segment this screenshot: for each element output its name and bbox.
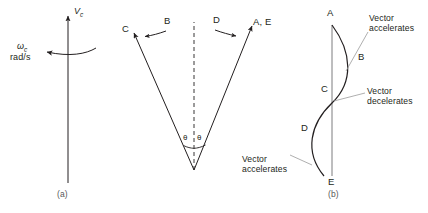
leader-line-middle	[334, 93, 365, 101]
angle-label-left: θ	[183, 133, 188, 144]
caption-a: (a)	[57, 189, 68, 200]
left-ray	[134, 33, 194, 170]
angle-arc-left	[184, 146, 195, 149]
omega-units-label: rad/s	[10, 52, 31, 63]
leader-line-lower	[290, 155, 312, 165]
leader-line-upper	[346, 32, 368, 71]
arc-arrow-b	[145, 31, 166, 37]
right-ray	[194, 26, 252, 170]
point-label-a: A	[327, 8, 333, 19]
annotation-vector-accelerates-upper: Vector accelerates	[369, 13, 414, 33]
figure-container: Vc ωc rad/s (a) C A, E B D θ θ A B C D E…	[0, 0, 428, 213]
panel-a-graphics	[47, 16, 96, 183]
panel-middle-graphics	[134, 22, 252, 170]
label-b-middle: B	[164, 16, 170, 27]
arc-arrow-d	[215, 30, 236, 36]
omega-curved-arrow	[47, 48, 96, 55]
annotation-vector-accelerates-lower: Vector accelerates	[242, 154, 287, 174]
s-curve	[312, 25, 348, 176]
point-label-d: D	[301, 123, 308, 134]
label-ae-middle: A, E	[253, 17, 271, 28]
velocity-subscript: c	[80, 11, 83, 18]
caption-b: (b)	[328, 189, 339, 200]
annotation-vector-decelerates: Vector decelerates	[367, 86, 413, 106]
label-d-middle: D	[213, 15, 220, 26]
velocity-label: Vc	[74, 6, 83, 20]
angle-label-right: θ	[197, 133, 202, 144]
point-label-c: C	[321, 84, 328, 95]
point-label-e: E	[328, 177, 334, 188]
figure-vector-graphics	[0, 0, 428, 213]
point-label-b: B	[358, 52, 364, 63]
panel-b-graphics	[290, 25, 368, 176]
label-c-middle: C	[122, 24, 129, 35]
